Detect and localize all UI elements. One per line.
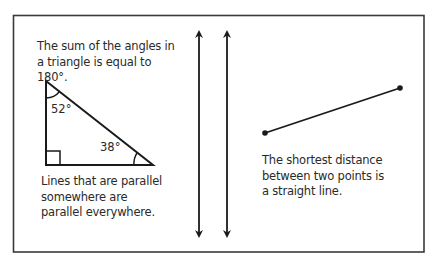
shortest-distance-note: The shortest distance between two points… (262, 153, 392, 200)
right-angle-marker (46, 151, 60, 165)
bottom-angle-arc (134, 153, 137, 165)
euclid-postulates-diagram: The sum of the angles in a triangle is e… (0, 0, 440, 266)
angle-sum-note: The sum of the angles in a triangle is e… (37, 39, 177, 86)
segment-line (265, 88, 400, 133)
point-a (262, 130, 268, 136)
parallel-note: Lines that are parallel somewhere are pa… (41, 174, 166, 221)
bottom-angle-label: 38° (100, 140, 120, 154)
line-segment (262, 85, 403, 136)
top-angle-arc (46, 92, 60, 99)
point-b (397, 85, 403, 91)
top-angle-label: 52° (51, 102, 71, 116)
